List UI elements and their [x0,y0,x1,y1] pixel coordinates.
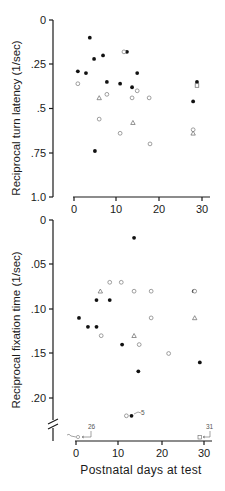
filled-circle-point [88,36,92,40]
bottom-data-points [77,236,202,418]
open-circle-point [147,96,151,100]
filled-circle-point [118,82,122,86]
open-circle-point [97,117,101,121]
filled-circle-point [108,298,112,302]
filled-circle-point [130,85,134,89]
open-circle-point [99,334,103,338]
bottom-xtick-2: 20 [156,447,168,459]
open-circle-point [76,82,80,86]
filled-circle-point [101,54,105,58]
open-triangle-point [98,289,102,293]
annotation-31: 31 [206,423,214,430]
open-circle-point [108,280,112,284]
x-axis-label: Postnatal days at test [80,463,202,477]
open-circle-point [137,343,141,347]
top-chart: Reciprocal turn latency (1/sec) 0 .25 .5… [10,14,210,215]
filled-circle-point [95,325,99,329]
filled-circle-point [76,69,80,73]
annotation-5: 5 [141,409,145,416]
open-circle-point [122,50,126,54]
open-circle-point [149,316,153,320]
filled-circle-point [86,325,90,329]
open-square-point [195,84,199,88]
open-circle-point [167,352,171,356]
open-circle-point [105,92,109,96]
filled-circle-point [195,80,199,84]
off-scale-annotations: 5 26 31 [67,409,214,439]
bottom-chart: Reciprocal fixation time (1/sec) 0 .05 .… [10,214,214,477]
filled-circle-point [105,80,109,84]
filled-circle-point [84,71,88,75]
figure: Reciprocal turn latency (1/sec) 0 .25 .5… [0,0,225,491]
top-y-ticks: 0 .25 .5 .75 1.0 [31,14,53,203]
top-xtick-0: 0 [71,203,77,215]
top-data-points [76,36,199,153]
filled-circle-point [130,414,134,418]
bottom-x-ticks: 0 10 20 30 [73,441,210,459]
bottom-ytick-0: 0 [40,214,46,226]
annotation-26: 26 [88,423,96,430]
top-xtick-2: 20 [153,203,165,215]
open-circle-point [149,289,153,293]
top-ytick-2: .5 [37,102,46,114]
open-circle-point [148,142,152,146]
filled-circle-point [77,316,81,320]
top-x-ticks: 0 10 20 30 [71,197,208,215]
open-circle-point [135,89,139,93]
filled-circle-point [93,149,97,153]
open-circle-point [130,96,134,100]
top-xtick-3: 30 [196,203,208,215]
filled-circle-point [136,369,140,373]
top-ytick-1: .25 [31,58,46,70]
bottom-ytick-3: .15 [31,347,46,359]
open-circle-point [119,280,123,284]
filled-circle-point [135,71,139,75]
bottom-y-axis-label: Reciprocal fixation time (1/sec) [10,251,22,408]
axis-break-icon [48,419,58,441]
filled-circle-point [92,57,96,61]
top-xtick-1: 10 [110,203,122,215]
open-triangle-point [131,120,135,124]
top-y-axis-label: Reciprocal turn latency (1/sec) [10,40,22,195]
bottom-xtick-1: 10 [112,447,124,459]
filled-circle-point [132,236,136,240]
filled-circle-point [120,343,124,347]
open-circle-point [118,131,122,135]
open-circle-point [124,414,128,418]
open-triangle-point [97,96,101,100]
filled-circle-point [198,361,202,365]
open-circle-point [193,289,197,293]
bottom-ytick-2: .10 [31,303,46,315]
top-ytick-3: .75 [31,147,46,159]
bottom-xtick-0: 0 [73,447,79,459]
open-circle-point [132,289,136,293]
top-ytick-0: 0 [40,14,46,26]
top-ytick-4: 1.0 [31,191,46,203]
filled-circle-point [191,100,195,104]
open-triangle-point [132,334,136,338]
open-triangle-point [193,316,197,320]
bottom-ytick-1: .05 [31,258,46,270]
bottom-xtick-3: 30 [198,447,210,459]
bottom-ytick-4: .20 [31,392,46,404]
bottom-y-ticks: 0 .05 .10 .15 .20 [31,214,53,404]
filled-circle-point [95,298,99,302]
open-triangle-point [191,131,195,135]
